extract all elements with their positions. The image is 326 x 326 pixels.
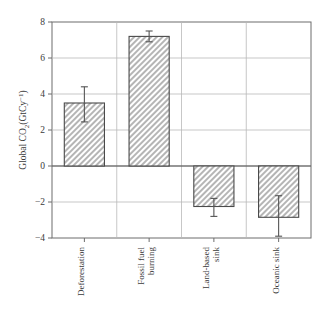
y-tick-label: 0 <box>40 161 45 171</box>
y-tick-label: 8 <box>40 17 45 27</box>
x-axis-category-label: Fossil fuel <box>136 247 146 285</box>
x-axis-category-label: Deforestation <box>76 247 86 296</box>
bar <box>129 36 169 166</box>
y-axis-title-mid: (GtCy <box>18 101 29 125</box>
figure-container: 86420−2−4 DeforestationFossil fuelburnin… <box>0 0 326 326</box>
y-tick-label: 4 <box>40 89 45 99</box>
y-axis-title-lead: Global CO <box>18 128 28 170</box>
x-axis-category-label: Oceanic sink <box>271 247 281 294</box>
y-tick-label: −2 <box>35 197 45 207</box>
x-axis-category-label: burning <box>146 247 156 275</box>
y-tick-label: 2 <box>40 125 45 135</box>
y-tick-label: −4 <box>35 233 45 243</box>
bar-chart: 86420−2−4 DeforestationFossil fuelburnin… <box>0 0 326 326</box>
x-axis-category-label: sink <box>211 247 221 263</box>
y-axis-title-tail: ) <box>18 90 29 93</box>
y-tick-label: 6 <box>40 53 45 63</box>
x-axis-category-label: Land-based <box>201 247 211 289</box>
